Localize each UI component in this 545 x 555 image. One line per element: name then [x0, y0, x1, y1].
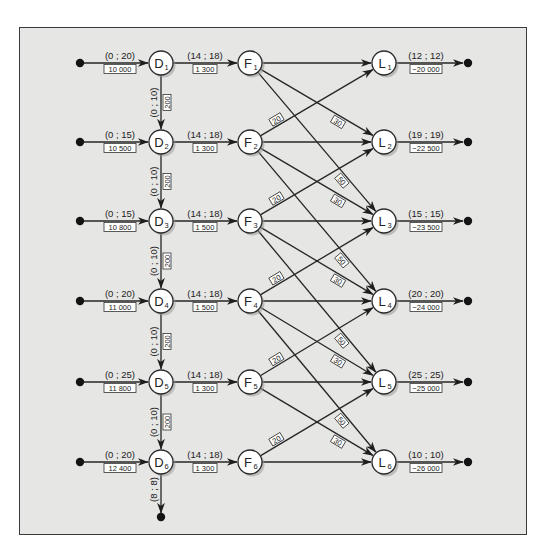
svg-text:5: 5: [253, 382, 257, 391]
svg-text:−25 000: −25 000: [412, 384, 439, 393]
node-d4: D4: [149, 289, 176, 316]
delivery-cost-label: 20: [269, 432, 285, 446]
demand-cost-label: −23 500: [410, 223, 442, 233]
svg-text:F: F: [244, 135, 252, 150]
node-f1: F1: [238, 51, 265, 78]
svg-text:200: 200: [163, 96, 172, 109]
svg-text:1: 1: [387, 63, 391, 72]
production-cost-label: 1 500: [193, 223, 217, 233]
svg-text:L: L: [378, 294, 385, 309]
delivery-cost-label: 20: [269, 271, 285, 285]
sink-terminal-3: [464, 217, 472, 225]
node-l5: L5: [372, 370, 399, 397]
demand-bounds-label: (12 ; 12): [408, 50, 443, 61]
svg-text:D: D: [154, 214, 163, 229]
svg-text:2: 2: [164, 142, 168, 151]
svg-text:1 500: 1 500: [196, 223, 215, 232]
inventory-bounds-label: (0 ; 10): [148, 166, 159, 196]
supply-bounds-label: (0 ; 20): [105, 449, 135, 460]
svg-text:3: 3: [164, 221, 168, 230]
svg-text:D: D: [154, 135, 163, 150]
svg-text:200: 200: [163, 255, 172, 268]
svg-text:11 800: 11 800: [109, 384, 131, 393]
inventory-bounds-label: (0 ; 10): [148, 246, 159, 276]
svg-text:6: 6: [253, 462, 257, 471]
svg-text:−22 500: −22 500: [412, 144, 439, 153]
svg-text:6: 6: [164, 462, 168, 471]
final-inventory-terminal: [157, 513, 165, 521]
svg-text:−20 000: −20 000: [412, 65, 439, 74]
svg-text:F: F: [244, 455, 252, 470]
svg-text:3: 3: [387, 221, 391, 230]
delivery-cost-label: 20: [269, 352, 285, 366]
node-l3: L3: [372, 209, 399, 236]
node-f2: F2: [238, 130, 265, 157]
sink-terminal-5: [464, 378, 472, 386]
svg-text:12 400: 12 400: [109, 464, 132, 473]
source-terminal-2: [76, 138, 84, 146]
svg-text:10 500: 10 500: [109, 144, 132, 153]
demand-cost-label: −26 000: [410, 464, 442, 474]
node-d2: D2: [149, 130, 176, 157]
sink-terminal-2: [464, 138, 472, 146]
production-cost-label: 1 300: [193, 65, 217, 75]
sink-terminal-1: [464, 59, 472, 67]
svg-text:4: 4: [387, 301, 391, 310]
svg-text:5: 5: [387, 382, 391, 391]
svg-text:F: F: [244, 214, 252, 229]
supply-cost-label: 10 000: [104, 65, 136, 75]
supply-cost-label: 12 400: [104, 464, 136, 474]
svg-text:200: 200: [163, 335, 172, 348]
production-cost-label: 1 300: [193, 384, 217, 394]
supply-bounds-label: (0 ; 15): [105, 129, 135, 140]
supply-cost-label: 10 500: [104, 144, 136, 154]
svg-text:D: D: [154, 375, 163, 390]
delivery-cost-label: 50: [334, 413, 349, 429]
production-bounds-label: (14 ; 18): [187, 50, 222, 61]
source-terminal-3: [76, 217, 84, 225]
svg-text:10 800: 10 800: [109, 223, 132, 232]
svg-text:11 000: 11 000: [109, 303, 131, 312]
delivery-cost-label: 50: [334, 333, 349, 349]
svg-text:F: F: [244, 294, 252, 309]
production-cost-label: 1 300: [193, 144, 217, 154]
node-l1: L1: [372, 51, 399, 78]
inventory-cost-label: 200: [163, 414, 172, 430]
svg-text:L: L: [378, 135, 385, 150]
inventory-cost-label: 200: [163, 253, 172, 269]
delivery-arc-f4-l6: [258, 310, 376, 452]
production-cost-label: 1 300: [193, 464, 217, 474]
svg-text:D: D: [154, 56, 163, 71]
svg-text:1 500: 1 500: [196, 303, 215, 312]
svg-text:4: 4: [253, 301, 257, 310]
node-f6: F6: [238, 450, 265, 477]
source-terminal-5: [76, 378, 84, 386]
svg-text:6: 6: [387, 462, 391, 471]
supply-cost-label: 10 800: [104, 223, 136, 233]
inventory-cost-label: 200: [163, 95, 172, 111]
delivery-cost-label: 30: [330, 354, 346, 368]
inventory-cost-label: 200: [163, 174, 172, 190]
node-l2: L2: [372, 130, 399, 157]
supply-bounds-label: (0 ; 20): [105, 50, 135, 61]
production-bounds-label: (14 ; 18): [187, 369, 222, 380]
demand-bounds-label: (19 ; 19): [408, 129, 443, 140]
inventory-bounds-label: (0 ; 10): [148, 326, 159, 356]
svg-text:1: 1: [253, 63, 257, 72]
svg-text:−26 000: −26 000: [412, 464, 439, 473]
node-d3: D3: [149, 209, 176, 236]
svg-text:200: 200: [163, 416, 172, 429]
production-bounds-label: (14 ; 18): [187, 449, 222, 460]
svg-text:1 300: 1 300: [196, 65, 215, 74]
svg-text:4: 4: [164, 301, 168, 310]
svg-text:1 300: 1 300: [196, 384, 215, 393]
delivery-cost-label: 30: [330, 435, 346, 449]
svg-text:1: 1: [164, 63, 168, 72]
svg-text:−24 000: −24 000: [412, 303, 439, 312]
delivery-cost-label: 50: [334, 253, 349, 269]
node-f4: F4: [238, 289, 265, 316]
source-terminal-6: [76, 458, 84, 466]
svg-text:1 300: 1 300: [196, 464, 215, 473]
node-l6: L6: [372, 450, 399, 477]
edge-labels-layer: (0 ; 20)10 000(0 ; 15)10 500(0 ; 15)10 8…: [104, 50, 444, 502]
